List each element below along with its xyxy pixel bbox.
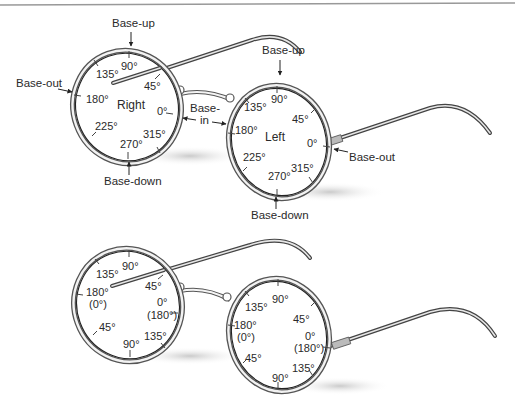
deg-315: 315° bbox=[143, 128, 166, 140]
deg-135-bottom: 135° bbox=[292, 362, 315, 374]
deg-0-alt: (0°) bbox=[237, 331, 255, 343]
deg-135-bottom: 135° bbox=[144, 330, 167, 342]
deg-135: 135° bbox=[245, 301, 268, 313]
deg-180-alt: (180°) bbox=[147, 309, 177, 321]
deg-90: 90° bbox=[272, 293, 289, 305]
deg-0: 0° bbox=[307, 137, 318, 149]
label-base-in-line1: Base- bbox=[190, 102, 220, 114]
label-base-down-left: Base-down bbox=[251, 209, 309, 221]
deg-0-alt: (0°) bbox=[89, 298, 107, 310]
deg-180-alt: (180°) bbox=[294, 342, 324, 354]
deg-45: 45° bbox=[144, 80, 161, 92]
deg-0: 0° bbox=[157, 296, 168, 308]
lens-name-left: Left bbox=[265, 130, 286, 144]
label-base-up-right: Base-up bbox=[112, 17, 155, 29]
label-base-out-left: Base-out bbox=[349, 151, 396, 163]
prism-base-diagram: 90° 135° 45° 180° Right 0° 225° 315° 270… bbox=[0, 0, 515, 412]
deg-180: 180° bbox=[86, 286, 109, 298]
deg-270: 270° bbox=[120, 138, 143, 150]
deg-135: 135° bbox=[96, 68, 119, 80]
deg-180: 180° bbox=[234, 319, 257, 331]
deg-0: 0° bbox=[305, 330, 316, 342]
temple-arm-near bbox=[330, 309, 495, 349]
deg-90: 90° bbox=[121, 60, 138, 72]
deg-90-bottom: 90° bbox=[123, 338, 140, 350]
deg-90-bottom: 90° bbox=[272, 372, 289, 384]
deg-180: 180° bbox=[86, 93, 109, 105]
deg-0: 0° bbox=[157, 105, 168, 117]
deg-45: 45° bbox=[292, 113, 309, 125]
deg-45-bottom: 45° bbox=[99, 321, 116, 333]
deg-135: 135° bbox=[96, 268, 119, 280]
label-base-in-line2: in bbox=[200, 114, 209, 126]
deg-45: 45° bbox=[293, 313, 310, 325]
label-base-out-right: Base-out bbox=[16, 77, 63, 89]
temple-arm-near bbox=[325, 106, 490, 146]
deg-270: 270° bbox=[268, 170, 291, 182]
deg-225: 225° bbox=[95, 120, 118, 132]
lens-name-right: Right bbox=[117, 98, 146, 112]
top-rule bbox=[0, 3, 515, 5]
deg-315: 315° bbox=[291, 162, 314, 174]
top-spectacles: 90° 135° 45° 180° Right 0° 225° 315° 270… bbox=[16, 17, 490, 221]
bridge bbox=[176, 86, 234, 102]
deg-90: 90° bbox=[122, 260, 139, 272]
deg-180: 180° bbox=[235, 124, 258, 136]
deg-225: 225° bbox=[243, 151, 266, 163]
label-base-down-right: Base-down bbox=[104, 175, 162, 187]
label-base-up-left: Base-up bbox=[262, 44, 305, 56]
deg-135: 135° bbox=[244, 101, 267, 113]
bottom-spectacles: 90° 135° 45° 180° (0°) 0° (180°) 45° 135… bbox=[58, 233, 495, 403]
deg-90: 90° bbox=[271, 93, 288, 105]
deg-45-bottom: 45° bbox=[245, 352, 262, 364]
deg-45: 45° bbox=[145, 280, 162, 292]
